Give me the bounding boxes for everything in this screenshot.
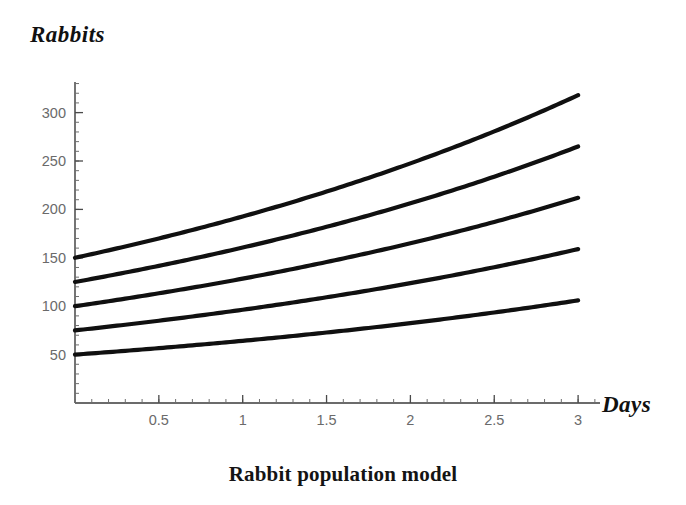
x-tick-label: 3 [574,412,582,428]
plot-area: 0.511.522.5350100150200250300 [0,0,686,450]
x-tick-label: 2 [406,412,414,428]
x-tick-label: 1.5 [316,412,336,428]
y-tick-label: 100 [42,298,66,314]
y-tick-label: 50 [50,347,66,363]
curve-series-4 [75,300,578,354]
chart-page: Rabbits 0.511.522.5350100150200250300 Da… [0,0,686,505]
x-tick-label: 2.5 [484,412,504,428]
curve-series-0 [75,95,578,258]
x-tick-label: 1 [239,412,247,428]
curve-series-2 [75,198,578,306]
y-tick-label: 200 [42,201,66,217]
axes-group [75,82,600,403]
y-tick-label: 250 [42,153,66,169]
y-tick-label: 150 [42,250,66,266]
curves-group [75,95,578,354]
y-tick-label: 300 [42,105,66,121]
x-tick-label: 0.5 [149,412,169,428]
chart-caption: Rabbit population model [0,462,686,487]
x-axis-title: Days [602,392,651,418]
axis-ticks-group [75,84,595,403]
